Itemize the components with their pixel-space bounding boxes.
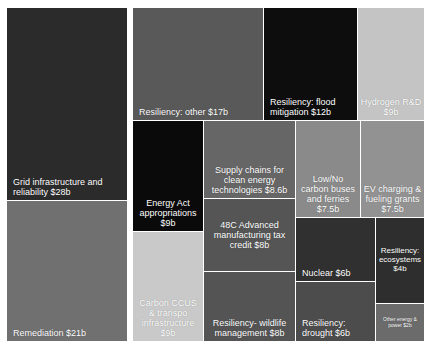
treemap-tile-label: Resiliency- wildlife management $8b bbox=[204, 318, 295, 341]
treemap-tile-label: Grid infrastructure and reliability $28b bbox=[7, 177, 127, 200]
treemap-tile-label: Hydrogen R&D $9b bbox=[358, 97, 424, 120]
treemap-tile-label: Resiliency: drought $6b bbox=[296, 318, 375, 341]
treemap-tile[interactable]: Resiliency: other $17b bbox=[133, 8, 263, 120]
treemap-tile[interactable]: Low/No carbon buses and ferries $7.5b bbox=[296, 121, 360, 217]
treemap-tile[interactable]: Carbon CCUS & transpo infrastructure $9b bbox=[133, 232, 203, 341]
treemap-tile[interactable]: EV charging & fueling grants $7.5b bbox=[361, 121, 424, 217]
treemap-tile-label: 48C Advanced manufacturing tax credit $8… bbox=[204, 220, 295, 250]
treemap-tile[interactable]: Resiliency: ecosystems $4b bbox=[376, 218, 424, 303]
treemap-tile-label: Supply chains for clean energy technolog… bbox=[204, 165, 295, 198]
treemap-tile[interactable]: Hydrogen R&D $9b bbox=[358, 8, 424, 120]
treemap-tile-label: Resiliency: other $17b bbox=[133, 107, 263, 120]
treemap-tile-label: Resiliency: flood mitigation $12b bbox=[264, 97, 357, 120]
treemap-tile-label: Other energy & power $2b bbox=[376, 317, 424, 328]
treemap-tile[interactable]: Nuclear $6b bbox=[296, 218, 375, 281]
treemap-tile-label: Carbon CCUS & transpo infrastructure $9b bbox=[133, 298, 203, 341]
treemap-tile[interactable]: Remediation $21b bbox=[7, 201, 127, 341]
treemap-tile[interactable]: 48C Advanced manufacturing tax credit $8… bbox=[204, 199, 295, 271]
treemap-tile-label: Energy Act appropriations $9b bbox=[133, 198, 203, 231]
treemap-tile-label: Remediation $21b bbox=[7, 328, 127, 341]
treemap-tile[interactable]: Resiliency- wildlife management $8b bbox=[204, 272, 295, 341]
treemap-chart: Grid infrastructure and reliability $28b… bbox=[0, 0, 431, 348]
treemap-tile[interactable]: Energy Act appropriations $9b bbox=[133, 121, 203, 231]
treemap-tile-label: Resiliency: ecosystems $4b bbox=[376, 247, 424, 274]
treemap-tile[interactable]: Other energy & power $2b bbox=[376, 304, 424, 341]
treemap-tile[interactable]: Resiliency: flood mitigation $12b bbox=[264, 8, 357, 120]
treemap-tile[interactable]: Supply chains for clean energy technolog… bbox=[204, 121, 295, 198]
treemap-tile-label: EV charging & fueling grants $7.5b bbox=[361, 184, 424, 217]
treemap-tile-label: Nuclear $6b bbox=[296, 268, 375, 281]
treemap-tile-label: Low/No carbon buses and ferries $7.5b bbox=[296, 174, 360, 217]
treemap-tile[interactable]: Resiliency: drought $6b bbox=[296, 282, 375, 341]
treemap-tile[interactable]: Grid infrastructure and reliability $28b bbox=[7, 8, 127, 200]
